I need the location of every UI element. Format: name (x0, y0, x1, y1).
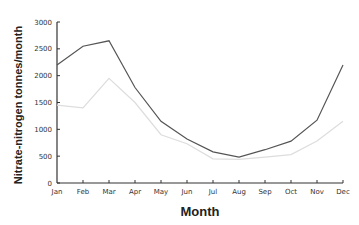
x-tick-label: Dec (336, 188, 350, 196)
x-tick-label: Feb (77, 188, 90, 196)
x-tick-label: Sep (258, 188, 272, 196)
x-tick-label: Apr (129, 188, 141, 196)
series-line (57, 41, 343, 157)
x-tick-label: Jan (51, 188, 63, 196)
x-axis-title: Month (181, 204, 220, 219)
x-tick-label: Mar (102, 188, 115, 196)
x-tick-label: Jun (181, 188, 193, 196)
line-chart: 050010001500200025003000 JanFebMarAprMay… (0, 0, 359, 225)
series-line (57, 78, 343, 159)
y-tick-label: 1500 (34, 99, 52, 107)
y-tick-label: 2500 (34, 45, 52, 53)
x-tick-label: Jul (208, 188, 218, 196)
y-axis-title: Nitrate-nitrogen tonnes/month (12, 26, 24, 185)
x-axis: JanFebMarAprMayJunJulAugSepOctNovDec (51, 180, 350, 196)
y-tick-label: 3000 (34, 19, 52, 27)
x-tick-label: Oct (285, 188, 297, 196)
x-tick-label: Nov (310, 188, 324, 196)
series-layer (57, 41, 343, 160)
y-tick-label: 500 (39, 153, 52, 161)
y-tick-label: 1000 (34, 126, 52, 134)
x-tick-label: Aug (232, 188, 246, 196)
y-axis: 050010001500200025003000 (34, 19, 60, 188)
y-tick-label: 0 (48, 180, 52, 188)
y-tick-label: 2000 (34, 72, 52, 80)
x-tick-label: May (154, 188, 168, 196)
